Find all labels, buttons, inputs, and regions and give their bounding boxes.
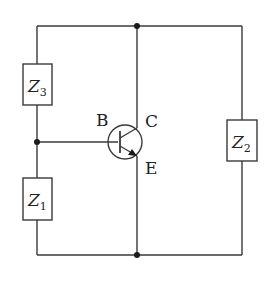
base-label: B xyxy=(96,110,109,130)
impedance-z3: Z3 xyxy=(23,64,52,105)
junction-dot-left xyxy=(34,139,40,145)
impedance-z2: Z2 xyxy=(227,120,257,161)
circuit-diagram: Z3 Z1 Z2 B C E xyxy=(0,0,279,281)
impedance-z1: Z1 xyxy=(23,178,52,220)
emitter-label: E xyxy=(145,158,157,178)
collector-label: C xyxy=(145,111,158,131)
junction-dot-top xyxy=(134,23,140,29)
junction-dot-bottom xyxy=(134,252,140,258)
